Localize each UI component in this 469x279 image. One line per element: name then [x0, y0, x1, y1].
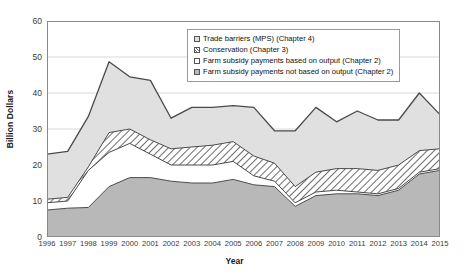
- y-tick-label: 60: [33, 16, 42, 26]
- area-chart: Billion Dollars 0102030405060 1996199719…: [0, 0, 469, 279]
- x-tick-label: 2014: [411, 239, 428, 248]
- x-tick-label: 1999: [101, 239, 118, 248]
- y-tick-label: 10: [33, 196, 42, 206]
- x-tick-label: 2004: [204, 239, 221, 248]
- x-tick-label: 2003: [183, 239, 200, 248]
- x-tick-label: 2009: [307, 239, 324, 248]
- x-tick-label: 1997: [59, 239, 76, 248]
- y-tick-label: 50: [33, 52, 42, 62]
- x-tick-label: 1996: [39, 239, 56, 248]
- legend-label: Conservation (Chapter 3): [203, 45, 288, 54]
- legend-swatch-icon: [194, 58, 200, 64]
- y-tick-label: 20: [33, 160, 42, 170]
- legend-item: Farm subsidy payments based on output (C…: [194, 55, 393, 66]
- legend-label: Farm subsidy payments based on output (C…: [203, 56, 381, 65]
- legend-swatch-icon: [194, 36, 200, 42]
- y-axis-title: Billion Dollars: [2, 0, 18, 237]
- legend-label: Trade barriers (MPS) (Chapter 4): [203, 34, 315, 43]
- x-tick-label: 2008: [287, 239, 304, 248]
- legend-item: Trade barriers (MPS) (Chapter 4): [194, 33, 393, 44]
- x-axis-tick-labels: 1996199719981999200020012002200320042005…: [0, 239, 469, 253]
- chart-legend: Trade barriers (MPS) (Chapter 4)Conserva…: [187, 29, 400, 82]
- x-tick-label: 2001: [142, 239, 159, 248]
- x-tick-label: 2010: [328, 239, 345, 248]
- y-tick-label: 40: [33, 88, 42, 98]
- x-tick-label: 2000: [121, 239, 138, 248]
- y-axis-tick-labels: 0102030405060: [18, 0, 46, 279]
- legend-swatch-icon: [194, 47, 200, 53]
- y-tick-label: 30: [33, 124, 42, 134]
- x-tick-label: 2005: [225, 239, 242, 248]
- x-tick-label: 1998: [80, 239, 97, 248]
- x-tick-label: 2013: [390, 239, 407, 248]
- x-tick-label: 2007: [266, 239, 283, 248]
- x-tick-label: 2011: [349, 239, 365, 248]
- x-tick-label: 2006: [245, 239, 262, 248]
- legend-item: Conservation (Chapter 3): [194, 44, 393, 55]
- legend-swatch-icon: [194, 69, 200, 75]
- legend-item: Farm subsidy payments not based on outpu…: [194, 66, 393, 77]
- x-axis-title: Year: [0, 256, 469, 266]
- legend-label: Farm subsidy payments not based on outpu…: [203, 67, 393, 76]
- x-tick-label: 2015: [432, 239, 449, 248]
- x-tick-label: 2012: [369, 239, 386, 248]
- x-tick-label: 2002: [163, 239, 180, 248]
